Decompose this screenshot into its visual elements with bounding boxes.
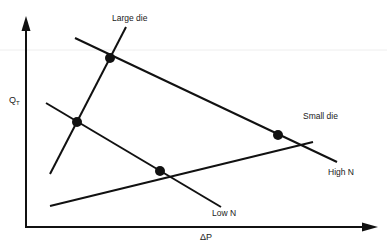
- diagram-canvas: Large die Small die High N Low N QT ΔP: [0, 0, 387, 249]
- small-die-line: [50, 142, 313, 206]
- y-axis-label-main: Q: [9, 95, 16, 105]
- y-axis-arrow-icon: [22, 16, 31, 31]
- small-die-label: Small die: [303, 111, 338, 121]
- point-small-die-high-n: [273, 130, 283, 140]
- point-large-die-low-n: [72, 117, 82, 127]
- x-axis-arrow-icon: [362, 223, 378, 232]
- low-n-line: [46, 103, 221, 207]
- point-large-die-high-n: [105, 53, 115, 63]
- large-die-line: [50, 27, 126, 174]
- point-small-die-low-n: [155, 166, 165, 176]
- y-axis-label-subscript: T: [16, 100, 20, 106]
- y-axis-label: QT: [9, 95, 20, 106]
- low-n-label: Low N: [212, 208, 236, 218]
- high-n-label: High N: [328, 167, 354, 177]
- large-die-label: Large die: [112, 13, 148, 23]
- x-axis-label: ΔP: [200, 232, 212, 242]
- characteristic-lines: [46, 27, 337, 207]
